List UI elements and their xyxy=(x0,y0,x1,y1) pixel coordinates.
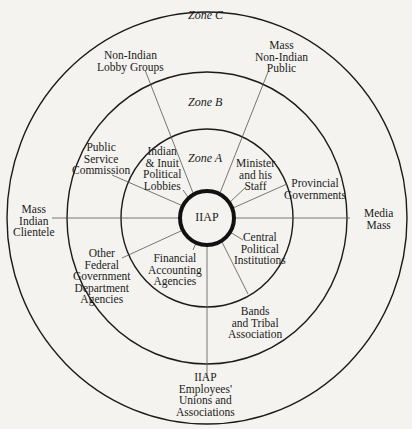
zone-c-label: Zone C xyxy=(188,8,223,23)
node-other-federal-agencies: Other Federal Government Department Agen… xyxy=(73,248,130,306)
node-provincial-governments: Provincial Governments xyxy=(284,178,346,201)
zone-a-label: Zone A xyxy=(188,151,222,166)
node-mass-non-indian-public: Mass Non-Indian Public xyxy=(255,40,308,75)
node-mass-indian-clientele: Mass Indian Clientele xyxy=(13,204,55,239)
node-minister-and-staff: Minister and his Staff xyxy=(236,158,275,193)
node-public-service-commission: Public Service Commission xyxy=(72,142,130,177)
node-non-indian-lobby-groups: Non-Indian Lobby Groups xyxy=(97,50,164,73)
zone-b-label: Zone B xyxy=(188,95,222,110)
node-central-political-institutions: Central Political Institutions xyxy=(234,232,286,267)
iiap-center-label: IIAP xyxy=(187,210,227,225)
node-media-mass: Media Mass xyxy=(364,208,393,231)
node-indian-inuit-lobbies: Indian & Inuit Political Lobbies xyxy=(143,146,181,192)
node-financial-accounting-agencies: Financial Accounting Agencies xyxy=(148,253,202,288)
node-iiap-employees-unions: IIAP Employees' Unions and Associations xyxy=(176,372,235,418)
node-bands-tribal-association: Bands and Tribal Association xyxy=(228,306,282,341)
